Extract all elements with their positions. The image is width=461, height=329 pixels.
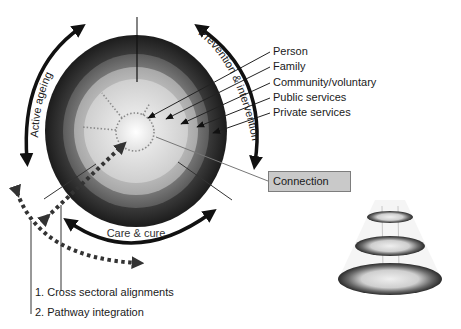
label-pathway-integration: 2. Pathway integration: [35, 306, 144, 319]
connection-box: Connection: [268, 171, 351, 192]
stacked-ellipse-cone-icon: [338, 200, 442, 295]
layer-label-community: Community/voluntary: [273, 76, 376, 89]
layer-label-person: Person: [273, 45, 308, 58]
care-model-diagram: Active ageing Prevention & intervention …: [0, 0, 461, 329]
concentric-layers: [45, 35, 227, 227]
layer-label-public-services: Public services: [273, 91, 346, 104]
layer-label-private-services: Private services: [273, 106, 351, 119]
arc-label-care-cure: Care & cure: [107, 227, 166, 239]
layer-label-family: Family: [273, 60, 305, 73]
label-cross-sectoral-alignments: 1. Cross sectoral alignments: [35, 286, 174, 299]
